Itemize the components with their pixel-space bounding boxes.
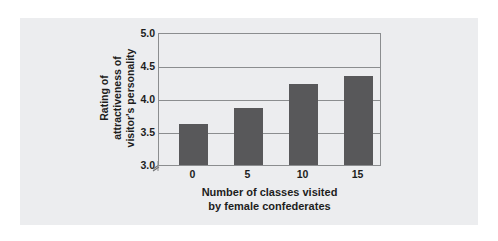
y-tick-label-4-0: 4.0 bbox=[129, 94, 155, 105]
bar-15 bbox=[344, 76, 373, 165]
chart-figure: Rating of attractiveness of visitor's pe… bbox=[0, 0, 498, 241]
y-tick-label-3-5: 3.5 bbox=[129, 127, 155, 138]
x-axis-title-line-2: by female confederates bbox=[158, 200, 381, 214]
y-axis-title-line-2: attractiveness of bbox=[111, 56, 123, 139]
x-axis-title: Number of classes visited by female conf… bbox=[158, 186, 381, 213]
y-tick-label-4-5: 4.5 bbox=[129, 61, 155, 72]
y-tick-label-5-0: 5.0 bbox=[129, 28, 155, 39]
bar-group bbox=[159, 34, 380, 165]
bar-10 bbox=[289, 84, 318, 165]
bar-5 bbox=[234, 108, 263, 165]
plot-area bbox=[158, 33, 381, 166]
x-tick-label-10: 10 bbox=[283, 168, 323, 181]
x-tick-label-0: 0 bbox=[173, 168, 213, 181]
x-axis-title-line-1: Number of classes visited bbox=[158, 186, 381, 200]
bar-0 bbox=[179, 124, 208, 165]
x-tick-label-15: 15 bbox=[338, 168, 378, 181]
y-axis-title-line-1: Rating of bbox=[98, 75, 110, 121]
y-axis-tick-labels: 5.0 4.5 4.0 3.5 3.0 bbox=[126, 33, 155, 166]
x-axis-tick-labels: 0 5 10 15 bbox=[158, 168, 381, 182]
x-tick-label-5: 5 bbox=[228, 168, 268, 181]
